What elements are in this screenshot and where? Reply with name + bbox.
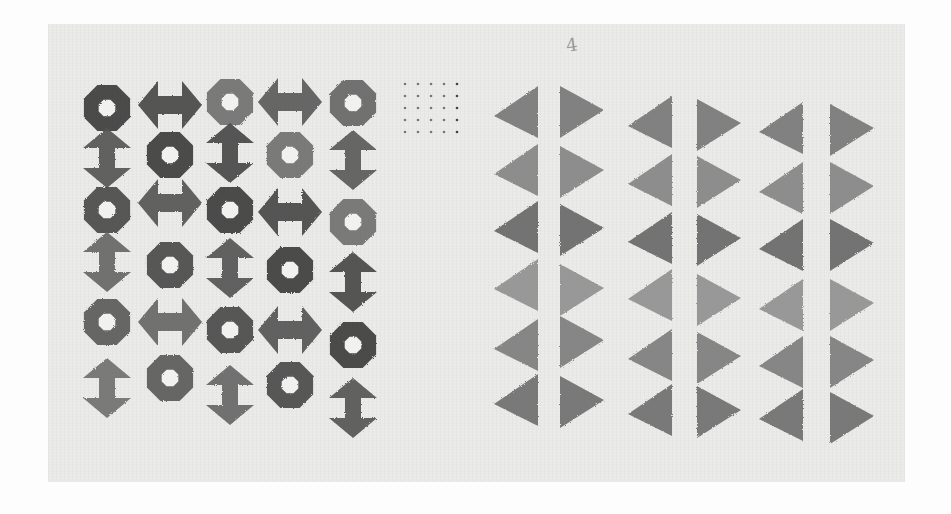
dot: [417, 95, 420, 98]
dot: [430, 107, 433, 110]
vertical-arrow-shape: [206, 238, 254, 298]
triangle-shape: [697, 214, 741, 266]
dot: [430, 95, 433, 98]
horizontal-arrow-shape: [258, 78, 322, 126]
dot: [456, 95, 459, 98]
dot: [456, 131, 459, 134]
dot: [443, 119, 446, 122]
vertical-arrow-shape: [83, 232, 131, 292]
triangle-shape: [494, 86, 538, 138]
vertical-arrow-shape: [329, 378, 377, 438]
triangle-shape: [628, 329, 672, 381]
vertical-arrow-shape: [83, 358, 131, 418]
triangle-shape: [759, 102, 803, 154]
dot: [404, 131, 407, 134]
triangles-grid: [494, 86, 874, 444]
dot: [417, 107, 420, 110]
dot: [430, 131, 433, 134]
triangle-shape: [759, 219, 803, 271]
dot: [443, 83, 446, 86]
dot: [417, 119, 420, 122]
triangle-shape: [759, 389, 803, 441]
dot: [404, 95, 407, 98]
triangle-shape: [494, 144, 538, 196]
artwork-canvas: [0, 0, 951, 514]
triangle-shape: [628, 212, 672, 264]
triangle-shape: [697, 156, 741, 208]
dot: [443, 107, 446, 110]
triangle-shape: [628, 96, 672, 148]
dot: [404, 107, 407, 110]
dot: [430, 83, 433, 86]
triangle-shape: [628, 269, 672, 321]
dot: [417, 131, 420, 134]
dot: [443, 95, 446, 98]
triangle-shape: [494, 201, 538, 253]
triangle-shape: [697, 99, 741, 151]
triangle-shape: [628, 154, 672, 206]
vertical-arrow-shape: [206, 365, 254, 425]
triangle-shape: [560, 86, 604, 138]
dot: [404, 83, 407, 86]
dot: [443, 131, 446, 134]
triangle-shape: [560, 204, 604, 256]
triangle-shape: [494, 319, 538, 371]
horizontal-arrow-shape: [138, 81, 202, 129]
dot: [417, 83, 420, 86]
triangle-shape: [494, 259, 538, 311]
triangle-shape: [697, 386, 741, 438]
vertical-arrow-shape: [329, 130, 377, 190]
dot: [456, 107, 459, 110]
triangle-shape: [830, 392, 874, 444]
triangle-shape: [830, 279, 874, 331]
triangle-shape: [560, 376, 604, 428]
vertical-arrow-shape: [206, 123, 254, 183]
triangle-shape: [830, 336, 874, 388]
triangle-shape: [759, 279, 803, 331]
dot: [404, 119, 407, 122]
dot: [456, 119, 459, 122]
triangle-shape: [560, 264, 604, 316]
dot: [456, 83, 459, 86]
triangle-shape: [628, 384, 672, 436]
vertical-arrow-shape: [329, 252, 377, 312]
triangle-shape: [697, 274, 741, 326]
triangle-shape: [560, 146, 604, 198]
rings-and-arrows-grid: [83, 78, 377, 438]
triangle-shape: [830, 219, 874, 271]
triangle-shape: [494, 374, 538, 426]
triangle-shape: [759, 336, 803, 388]
vertical-arrow-shape: [83, 128, 131, 188]
horizontal-arrow-shape: [138, 179, 202, 227]
dot-grid: [404, 83, 459, 134]
dot: [430, 119, 433, 122]
triangle-shape: [830, 104, 874, 156]
triangle-shape: [759, 162, 803, 214]
horizontal-arrow-shape: [138, 298, 202, 346]
horizontal-arrow-shape: [258, 306, 322, 354]
triangle-shape: [560, 316, 604, 368]
triangle-shape: [830, 162, 874, 214]
triangle-shape: [697, 332, 741, 384]
horizontal-arrow-shape: [258, 188, 322, 236]
